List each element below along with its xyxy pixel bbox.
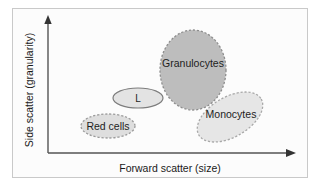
cluster-label-granulocytes: Granulocytes bbox=[162, 57, 224, 69]
arrow-up-icon bbox=[44, 15, 51, 24]
x-axis-label: Forward scatter (size) bbox=[119, 162, 221, 174]
cluster-ellipse-granulocytes[interactable] bbox=[160, 30, 226, 110]
cluster-label-red-cells: Red cells bbox=[86, 120, 129, 132]
scatter-plot: Granulocytes Monocytes L Red cells Forwa… bbox=[0, 0, 330, 185]
cluster-label-monocytes: Monocytes bbox=[206, 108, 257, 120]
arrow-right-icon bbox=[286, 149, 296, 157]
flow-cytometry-figure: Granulocytes Monocytes L Red cells Forwa… bbox=[0, 0, 330, 185]
cluster-group bbox=[81, 30, 271, 152]
y-axis-label: Side scatter (granularity) bbox=[23, 33, 35, 147]
cluster-label-lymphocytes: L bbox=[135, 93, 141, 104]
